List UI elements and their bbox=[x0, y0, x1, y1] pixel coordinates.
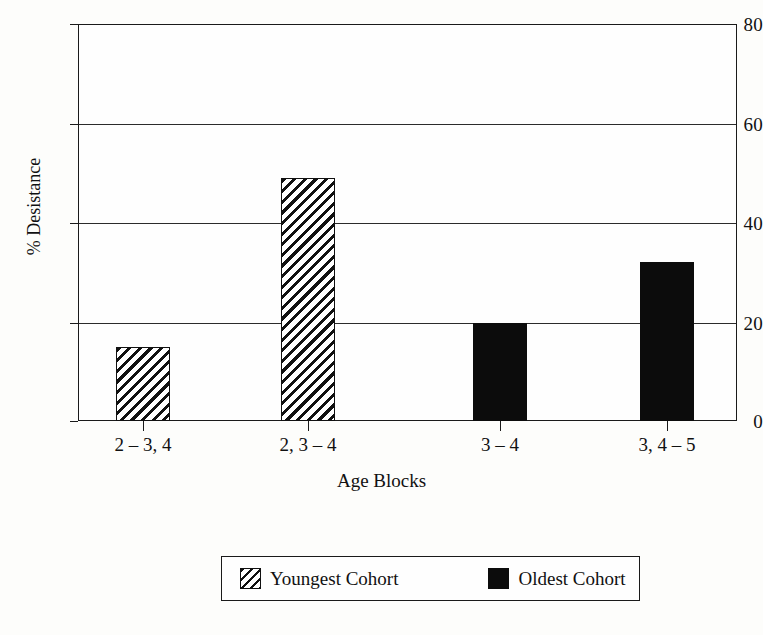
gridline-40 bbox=[79, 223, 736, 224]
x-axis-tick-mark-3 bbox=[667, 421, 668, 431]
x-axis-tick-mark-2 bbox=[500, 421, 501, 431]
chart-legend: Youngest Cohort Oldest Cohort bbox=[221, 556, 640, 601]
bar-age-2-3-4[interactable] bbox=[116, 347, 170, 421]
bar-age-3-4-5[interactable] bbox=[640, 262, 694, 421]
legend-entry-youngest-cohort[interactable]: Youngest Cohort bbox=[240, 568, 398, 589]
legend-swatch-hatched-icon bbox=[240, 568, 261, 589]
bar-chart-figure: 80 60 40 20 0 % Desistance 2 – 3, 4 2, 3… bbox=[0, 0, 763, 635]
plot-area bbox=[78, 24, 737, 421]
y-axis-tick-mark-80 bbox=[70, 24, 78, 25]
y-axis-tick-mark-20 bbox=[70, 323, 78, 324]
y-axis-tick-mark-60 bbox=[70, 124, 78, 125]
x-axis-tick-mark-1 bbox=[308, 421, 309, 431]
legend-entry-oldest-cohort[interactable]: Oldest Cohort bbox=[488, 568, 625, 589]
legend-label-youngest-cohort: Youngest Cohort bbox=[270, 569, 398, 588]
legend-label-oldest-cohort: Oldest Cohort bbox=[518, 569, 625, 588]
gridline-60 bbox=[79, 124, 736, 125]
bar-age-3-4[interactable] bbox=[473, 323, 527, 421]
x-axis-tick-mark-0 bbox=[143, 421, 144, 431]
x-axis-title: Age Blocks bbox=[0, 470, 763, 492]
y-axis-tick-mark-40 bbox=[70, 223, 78, 224]
bar-age-2-3dash4[interactable] bbox=[281, 178, 335, 421]
x-axis-tick-label-2: 3 – 4 bbox=[425, 434, 575, 456]
x-axis-tick-label-1: 2, 3 – 4 bbox=[233, 434, 383, 456]
y-axis-title: % Desistance bbox=[24, 107, 45, 307]
x-axis-tick-label-0: 2 – 3, 4 bbox=[68, 434, 218, 456]
legend-swatch-solid-icon bbox=[488, 568, 509, 589]
gridline-20 bbox=[79, 323, 736, 324]
y-axis-tick-mark-0 bbox=[70, 421, 78, 422]
x-axis-tick-label-3: 3, 4 – 5 bbox=[592, 434, 742, 456]
